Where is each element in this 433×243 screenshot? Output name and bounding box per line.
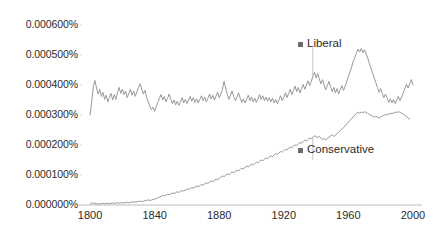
conservative-series-label: Conservative: [307, 143, 374, 155]
ngram-chart: 0.000600%0.000500%0.000400%0.000300%0.00…: [0, 0, 433, 243]
x-tick-label: 2000: [401, 209, 425, 221]
series-line-conservative: [90, 112, 410, 205]
liberal-series-label: Liberal: [307, 37, 342, 49]
series-line-liberal: [90, 48, 413, 115]
x-tick-label: 1880: [207, 209, 231, 221]
x-tick-label: 1800: [78, 209, 102, 221]
x-tick-label: 1960: [336, 209, 360, 221]
conservative-marker-icon: [298, 148, 303, 153]
plot-area: [0, 0, 433, 243]
liberal-marker-icon: [298, 42, 303, 47]
x-tick-label: 1920: [272, 209, 296, 221]
x-tick-label: 1840: [142, 209, 166, 221]
